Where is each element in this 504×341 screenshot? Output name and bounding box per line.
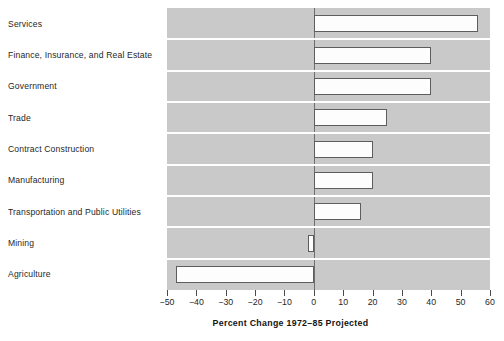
- bar: [314, 15, 478, 32]
- x-axis-tick: [314, 290, 315, 296]
- x-axis-tick-label: −10: [277, 297, 292, 308]
- x-axis-tick: [284, 290, 285, 296]
- x-axis-tick-label: 60: [485, 297, 495, 308]
- x-axis-tick: [343, 290, 344, 296]
- category-label: Trade: [8, 113, 31, 123]
- bar: [314, 141, 373, 158]
- x-axis-tick: [167, 290, 168, 296]
- row-separator: [167, 164, 490, 166]
- category-label: Services: [8, 19, 42, 29]
- bar: [314, 109, 387, 126]
- x-axis-tick: [490, 290, 491, 296]
- category-label: Agriculture: [8, 269, 51, 279]
- x-axis-tick-label: 40: [426, 297, 436, 308]
- x-axis-tick: [373, 290, 374, 296]
- bar: [314, 203, 361, 220]
- bar: [176, 266, 314, 283]
- row-separator: [167, 101, 490, 103]
- category-label: Finance, Insurance, and Real Estate: [8, 50, 152, 60]
- x-axis-title: Percent Change 1972–85 Projected: [0, 318, 504, 328]
- category-label: Manufacturing: [8, 175, 64, 185]
- bar: [314, 78, 431, 95]
- bar-chart: ServicesFinance, Insurance, and Real Est…: [0, 0, 504, 341]
- x-axis-title-text: Percent Change 1972–85 Projected: [213, 318, 369, 328]
- row-separator: [167, 132, 490, 134]
- row-separator: [167, 38, 490, 40]
- category-label: Contract Construction: [8, 144, 94, 154]
- x-axis-tick-label: −50: [160, 297, 175, 308]
- x-axis-tick-label: 0: [311, 297, 316, 308]
- x-axis-tick-label: 30: [397, 297, 407, 308]
- bar: [314, 172, 373, 189]
- category-label: Transportation and Public Utilities: [8, 207, 141, 217]
- x-axis-tick: [461, 290, 462, 296]
- x-axis-tick-label: −30: [218, 297, 233, 308]
- category-label-column: ServicesFinance, Insurance, and Real Est…: [0, 8, 160, 290]
- x-axis-tick-label: 10: [338, 297, 348, 308]
- x-axis-tick: [255, 290, 256, 296]
- x-axis-tick: [196, 290, 197, 296]
- x-axis-tick: [431, 290, 432, 296]
- x-axis: −50−40−30−20−100102030405060: [167, 290, 490, 314]
- bar: [314, 47, 431, 64]
- x-axis-tick: [402, 290, 403, 296]
- row-separator: [167, 195, 490, 197]
- category-label: Mining: [8, 238, 34, 248]
- bar: [308, 235, 314, 252]
- row-separator: [167, 226, 490, 228]
- x-axis-tick-label: 50: [456, 297, 466, 308]
- x-axis-tick-label: −40: [189, 297, 204, 308]
- x-axis-tick: [226, 290, 227, 296]
- row-separator: [167, 258, 490, 260]
- plot-area: [167, 8, 490, 290]
- x-axis-tick-label: 20: [368, 297, 378, 308]
- category-label: Government: [8, 81, 57, 91]
- x-axis-tick-label: −20: [248, 297, 263, 308]
- row-separator: [167, 70, 490, 72]
